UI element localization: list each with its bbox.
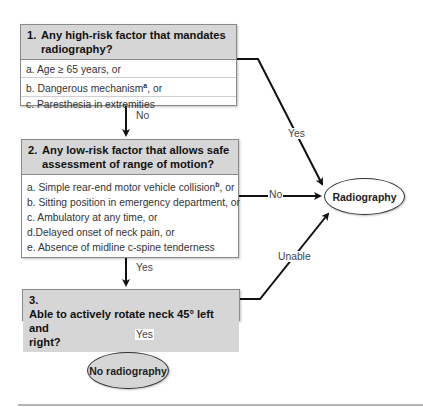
edge-label-d2-no: No (268, 189, 283, 200)
decision-1-item-c: c. Paresthesia in extremities (21, 97, 236, 112)
decision-2-number: 2. (28, 143, 42, 157)
decision-3-question-line-1: Able to actively rotate neck 45° left an… (29, 308, 214, 334)
decision-2-item-a: a. Simple rear-end motor vehicle collisi… (22, 177, 238, 195)
decision-box-1: 1.Any high-risk factor that mandatesradi… (20, 24, 237, 106)
edge-label-d1-yes: Yes (287, 128, 306, 139)
decision-2-question-line-1: Any low-risk factor that allows safe (42, 144, 229, 156)
decision-2-item-b: b. Sitting position in emergency departm… (22, 195, 238, 210)
edge-label-d3-unable: Unable (277, 251, 312, 262)
decision-1-item-a: a. Age ≥ 65 years, or (21, 62, 236, 78)
outcome-no-radiography: No radiography (87, 352, 169, 389)
decision-box-2: 2.Any low-risk factor that allows safeas… (21, 139, 239, 258)
arrow-d1-to-radiography (237, 59, 322, 184)
decision-3-header: 3.Able to actively rotate neck 45° left … (23, 290, 239, 352)
decision-1-question-line-1: Any high-risk factor that mandates (41, 29, 226, 41)
decision-2-header: 2.Any low-risk factor that allows safeas… (22, 140, 238, 175)
decision-2-item-c: c. Ambulatory at any time, or (22, 210, 238, 225)
decision-3-number: 3. (29, 293, 43, 307)
outcome-radiography: Radiography (324, 178, 405, 215)
edge-label-d2-yes: Yes (135, 262, 154, 273)
edge-label-d1-no: No (135, 110, 150, 121)
decision-1-item-b: b. Dangerous mechanisma, or (21, 78, 236, 97)
bottom-divider (18, 404, 423, 406)
decision-2-question-line-2: assessment of range of motion? (42, 158, 214, 170)
edge-label-d3-yes: Yes (135, 329, 154, 340)
decision-2-item-d: d.Delayed onset of neck pain, or (22, 225, 238, 240)
decision-1-header: 1.Any high-risk factor that mandatesradi… (21, 25, 236, 60)
decision-box-3: 3.Able to actively rotate neck 45° left … (22, 289, 240, 321)
decision-1-number: 1. (27, 28, 41, 42)
decision-3-question-line-2: right? (29, 336, 61, 348)
decision-1-question-line-2: radiography? (41, 43, 112, 55)
decision-2-item-e: e. Absence of midline c-spine tenderness (22, 240, 238, 255)
